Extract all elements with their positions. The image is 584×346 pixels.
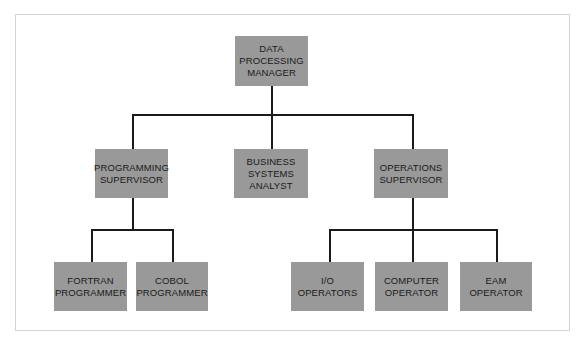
connector-programmers-horizontal: [91, 229, 174, 231]
node-label: BUSINESS SYSTEMS ANALYST: [247, 156, 296, 192]
node-label: EAM OPERATOR: [469, 275, 522, 299]
connector-to-analyst: [271, 114, 273, 149]
node-computer-operator: COMPUTER OPERATOR: [375, 262, 448, 311]
connector-to-io: [329, 229, 331, 262]
node-cobol-programmer: COBOL PROGRAMMER: [136, 262, 208, 311]
node-data-processing-manager: DATA PROCESSING MANAGER: [235, 36, 308, 86]
connector-to-cobol: [172, 229, 174, 262]
node-label: I/O OPERATORS: [298, 275, 358, 299]
connector-manager-down: [271, 86, 273, 115]
node-label: COBOL PROGRAMMER: [136, 275, 207, 299]
node-label: OPERATIONS SUPERVISOR: [379, 162, 442, 186]
connector-to-programming: [132, 114, 134, 149]
node-programming-supervisor: PROGRAMMING SUPERVISOR: [95, 149, 168, 198]
connector-to-operations: [412, 114, 414, 149]
connector-to-computer: [412, 229, 414, 262]
node-business-systems-analyst: BUSINESS SYSTEMS ANALYST: [234, 149, 308, 198]
node-eam-operator: EAM OPERATOR: [460, 262, 532, 311]
node-fortran-programmer: FORTRAN PROGRAMMER: [54, 262, 127, 311]
node-label: COMPUTER OPERATOR: [384, 275, 439, 299]
connector-programming-down: [132, 198, 134, 229]
connector-to-eam: [496, 229, 498, 262]
node-label: DATA PROCESSING MANAGER: [239, 43, 303, 79]
connector-to-fortran: [91, 229, 93, 262]
node-label: FORTRAN PROGRAMMER: [55, 275, 126, 299]
node-io-operators: I/O OPERATORS: [291, 262, 364, 311]
node-label: PROGRAMMING SUPERVISOR: [94, 162, 169, 186]
connector-operations-down: [412, 198, 414, 230]
node-operations-supervisor: OPERATIONS SUPERVISOR: [374, 149, 448, 198]
connector-level1-horizontal: [132, 114, 414, 116]
